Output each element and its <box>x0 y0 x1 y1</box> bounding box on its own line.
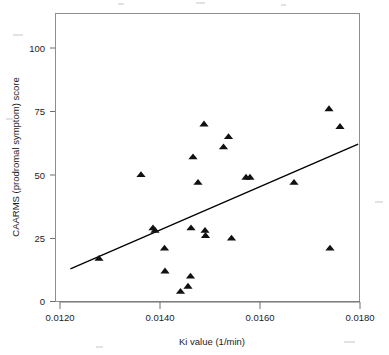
y-tick-label-75: 75 <box>34 106 45 117</box>
y-tick-label-0: 0 <box>40 296 45 307</box>
x-axis-title: Ki value (1/min) <box>179 336 245 347</box>
x-tick-label-0-0120: 0.0120 <box>45 312 74 323</box>
y-axis-title: CAARMS (prodromal symptom) score <box>10 77 21 236</box>
y-tick-label-100: 100 <box>29 43 45 54</box>
scatter-plot-figure: 100 75 50 25 0 0.0120 0.0140 0.0160 0.01… <box>0 0 389 355</box>
y-tick-label-25: 25 <box>34 233 45 244</box>
x-tick-label-0-0180: 0.0180 <box>345 312 374 323</box>
x-tick-label-0-0140: 0.0140 <box>145 312 174 323</box>
y-tick-label-50: 50 <box>34 170 45 181</box>
x-tick-label-0-0160: 0.0160 <box>245 312 274 323</box>
